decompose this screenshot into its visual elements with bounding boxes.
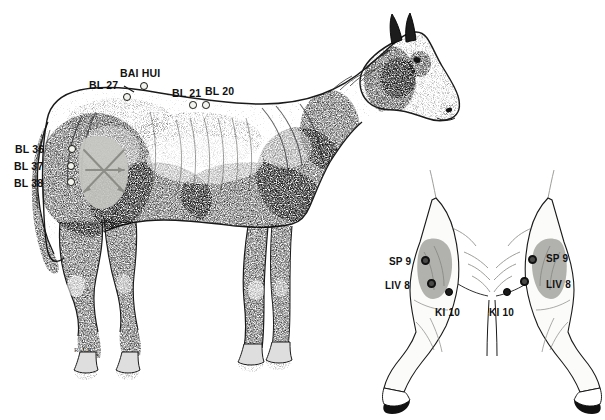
horse-lateral-illustration (0, 0, 605, 420)
point-marker-bl-36[interactable] (68, 145, 76, 153)
point-marker-ki-10-left[interactable] (445, 288, 453, 296)
label-sp-9-left: SP 9 (389, 257, 411, 267)
label-sp-9-right: SP 9 (546, 254, 568, 264)
point-marker-bl-20[interactable] (202, 101, 210, 109)
point-marker-liv-8-right[interactable] (520, 277, 529, 286)
artist-signature: R.J.R (74, 346, 92, 354)
point-marker-liv-8-left[interactable] (427, 279, 436, 288)
label-bl-36: BL 36 (15, 144, 44, 155)
label-bai-hui: BAI HUI (120, 68, 160, 79)
point-marker-bl-38[interactable] (67, 178, 75, 186)
point-marker-bl-21[interactable] (189, 101, 197, 109)
label-bl-27: BL 27 (89, 80, 118, 91)
label-bl-21: BL 21 (172, 88, 201, 99)
point-marker-bl-27[interactable] (123, 93, 131, 101)
point-marker-ki-10-right[interactable] (503, 288, 511, 296)
point-marker-bl-37[interactable] (67, 162, 75, 170)
label-ki-10-right: KI 10 (489, 308, 514, 318)
hindlimb-rear-illustration (383, 170, 602, 414)
point-marker-sp-9-right[interactable] (528, 255, 537, 264)
label-bl-38: BL 38 (14, 178, 43, 189)
label-liv-8-left: LIV 8 (385, 281, 410, 291)
acupuncture-chart: BAI HUI BL 27 BL 21 BL 20 BL 36 BL 37 BL… (0, 0, 605, 420)
label-liv-8-right: LIV 8 (546, 280, 571, 290)
label-bl-20: BL 20 (205, 86, 234, 97)
label-bl-37: BL 37 (14, 161, 43, 172)
point-marker-bai-hui[interactable] (140, 82, 148, 90)
label-ki-10-left: KI 10 (435, 308, 460, 318)
point-marker-sp-9-left[interactable] (421, 256, 430, 265)
